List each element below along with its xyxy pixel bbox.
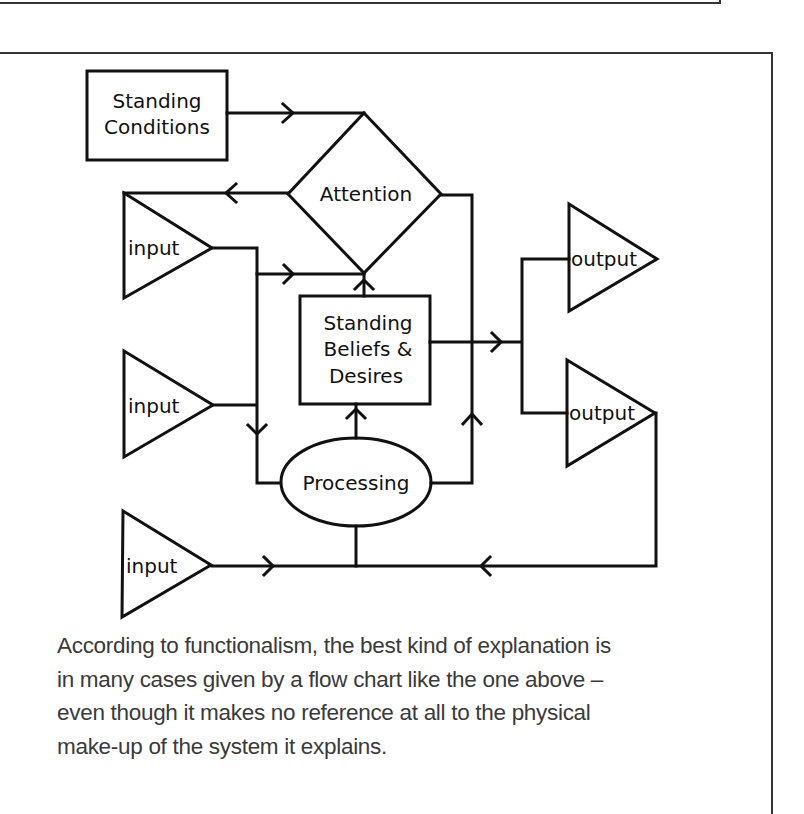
processing-node: Processing [281, 438, 431, 526]
caption-line-1: According to functionalism, the best kin… [57, 629, 757, 663]
output-node-2: output [567, 360, 655, 466]
input-node-1: input [124, 193, 212, 298]
output-label-1: output [571, 247, 637, 271]
standing-conditions-label-2: Conditions [104, 115, 210, 139]
edge-attention-to-input1 [124, 184, 288, 202]
edge-beliefs-to-outputs [430, 259, 569, 413]
output-label-2: output [569, 401, 635, 425]
caption-line-3: even though it makes no reference at all… [57, 696, 757, 730]
attention-label: Attention [320, 182, 412, 206]
edge-processing-to-beliefs [347, 404, 365, 438]
edge-output2-feedback [212, 413, 656, 575]
standing-conditions-node: Standing Conditions [87, 71, 227, 160]
beliefs-label-2: Beliefs & [324, 337, 413, 361]
attention-node: Attention [288, 113, 441, 273]
standing-conditions-label-1: Standing [112, 89, 201, 113]
edge-conditions-to-attention [227, 104, 364, 122]
input-label-1: input [128, 236, 180, 260]
beliefs-label-1: Standing [323, 311, 412, 335]
edge-beliefs-to-attention [355, 274, 373, 296]
input-node-3: input [122, 511, 273, 617]
input-label-2: input [128, 394, 180, 418]
beliefs-label-3: Desires [329, 364, 403, 388]
processing-label: Processing [303, 471, 410, 495]
input-node-2: input [124, 351, 256, 457]
caption-line-2: in many cases given by a flow chart like… [57, 663, 757, 697]
caption-line-4: make-up of the system it explains. [57, 730, 757, 764]
input-label-3: input [126, 554, 178, 578]
figure-caption: According to functionalism, the best kin… [57, 629, 757, 763]
output-node-1: output [569, 204, 657, 311]
edge-attention-right-loop [431, 195, 481, 483]
standing-beliefs-desires-node: Standing Beliefs & Desires [300, 296, 430, 404]
